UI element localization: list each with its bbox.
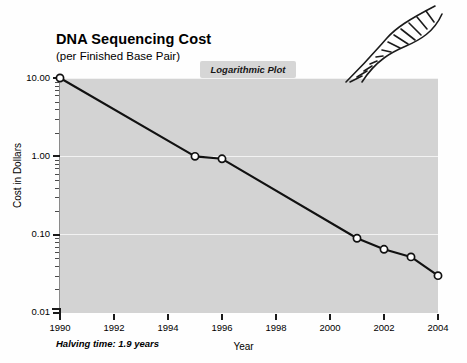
- x-tick-1992: [113, 314, 115, 320]
- y-minor-tick: [55, 90, 59, 91]
- x-tick-label-1990: 1990: [40, 322, 80, 333]
- y-minor-tick: [55, 164, 59, 165]
- y-minor-tick: [55, 266, 59, 267]
- x-tick-1994: [167, 314, 169, 320]
- y-minor-tick: [55, 238, 59, 239]
- halving-time-footnote: Halving time: 1.9 years: [56, 338, 159, 349]
- x-tick-label-1996: 1996: [202, 322, 242, 333]
- y-minor-tick: [55, 188, 59, 189]
- x-tick-2004: [437, 314, 439, 320]
- x-tick-label-2004: 2004: [418, 322, 458, 333]
- y-axis-title: Cost in Dollars: [12, 121, 23, 231]
- y-minor-tick: [55, 102, 59, 103]
- y-minor-tick: [55, 174, 59, 175]
- chart-subtitle: (per Finished Base Pair): [56, 50, 180, 62]
- x-tick-label-2002: 2002: [364, 322, 404, 333]
- y-tick-label-10: 10.00: [14, 72, 50, 83]
- logarithmic-plot-badge: Logarithmic Plot: [200, 61, 296, 78]
- x-tick-2002: [383, 314, 385, 320]
- y-minor-tick: [55, 197, 59, 198]
- y-minor-tick: [55, 289, 59, 290]
- y-minor-tick: [55, 252, 59, 253]
- x-tick-label-1992: 1992: [94, 322, 134, 333]
- y-tick-1: [53, 155, 60, 157]
- plot-area: [60, 78, 438, 313]
- y-minor-tick: [55, 133, 59, 134]
- y-minor-tick: [55, 86, 59, 87]
- chart-figure: DNA Sequencing Cost (per Finished Base P…: [0, 0, 467, 363]
- y-minor-tick: [55, 247, 59, 248]
- y-minor-tick: [55, 119, 59, 120]
- y-tick-10: [53, 77, 60, 79]
- y-minor-tick: [55, 180, 59, 181]
- x-tick-label-2000: 2000: [310, 322, 350, 333]
- x-tick-2000: [329, 314, 331, 320]
- y-axis-line: [59, 78, 60, 314]
- y-minor-tick: [55, 160, 59, 161]
- chart-title: DNA Sequencing Cost: [56, 31, 211, 47]
- dna-helix-icon: [338, 2, 450, 84]
- y-tick-label-0-01: 0.01: [14, 306, 50, 317]
- x-tick-1990: [59, 314, 61, 320]
- y-minor-tick: [55, 242, 59, 243]
- y-minor-tick: [55, 168, 59, 169]
- y-minor-tick: [55, 276, 59, 277]
- x-axis-title-text: Year: [233, 341, 253, 352]
- y-minor-tick: [55, 109, 59, 110]
- x-tick-1996: [221, 314, 223, 320]
- y-minor-tick: [55, 82, 59, 83]
- y-minor-tick: [55, 258, 59, 259]
- y-minor-tick: [55, 211, 59, 212]
- gridline-0-1: [60, 234, 438, 235]
- x-tick-label-1994: 1994: [148, 322, 188, 333]
- x-tick-label-1998: 1998: [256, 322, 296, 333]
- gridline-1: [60, 156, 438, 157]
- y-minor-tick: [55, 95, 59, 96]
- x-tick-1998: [275, 314, 277, 320]
- y-tick-0-1: [53, 234, 60, 236]
